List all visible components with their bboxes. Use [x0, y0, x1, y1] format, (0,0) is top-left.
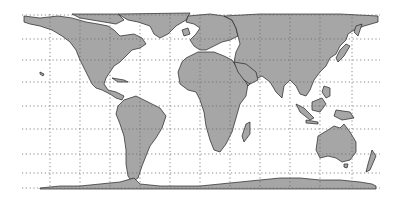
tasmania: [344, 164, 348, 168]
java: [306, 120, 318, 124]
antarctica: [40, 178, 376, 189]
north-america: [24, 16, 146, 100]
borneo: [312, 98, 326, 112]
world-map-canvas: [0, 0, 402, 215]
hawaii: [40, 72, 44, 76]
british-isles: [182, 28, 190, 36]
australia: [316, 124, 356, 162]
greenland: [118, 13, 190, 38]
philippines: [322, 86, 330, 98]
madagascar: [242, 122, 250, 142]
landmasses: [24, 13, 378, 189]
new-zealand: [366, 150, 376, 172]
south-america: [116, 96, 166, 182]
new-guinea: [334, 110, 354, 120]
world-map: [0, 0, 402, 215]
cuba: [112, 78, 128, 82]
